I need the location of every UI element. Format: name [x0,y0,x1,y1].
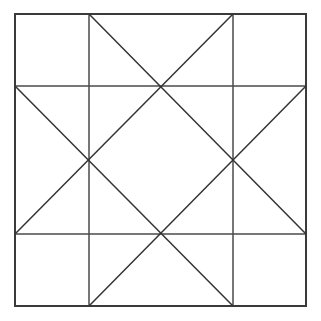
geometric-figure-svg [0,0,321,321]
figure-background [0,0,321,321]
figure-root [0,0,321,321]
